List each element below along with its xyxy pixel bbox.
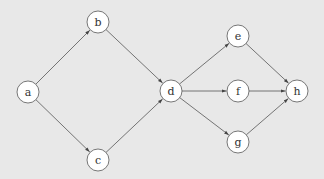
edge-c-d (106, 99, 163, 153)
edge-g-h (246, 99, 288, 135)
node-h: h (286, 80, 308, 102)
edge-b-d (106, 30, 163, 84)
edge-e-h (246, 44, 289, 84)
node-d: d (160, 80, 182, 102)
node-label: a (25, 86, 32, 99)
node-label: d (167, 85, 174, 98)
node-g: g (227, 131, 249, 153)
node-f: f (227, 80, 249, 102)
graph-canvas: abcdefgh (0, 0, 324, 179)
edge-d-e (180, 43, 230, 84)
node-e: e (227, 25, 249, 47)
edge-a-c (36, 100, 90, 152)
node-label: e (235, 30, 242, 43)
directed-graph: abcdefgh (0, 0, 324, 179)
node-a: a (17, 81, 39, 103)
edge-a-b (36, 30, 90, 84)
node-label: h (293, 85, 300, 98)
node-label: c (95, 154, 101, 167)
edge-d-g (180, 98, 229, 135)
node-b: b (87, 11, 109, 33)
node-label: g (234, 136, 241, 149)
node-c: c (87, 149, 109, 171)
node-label: b (94, 16, 101, 29)
